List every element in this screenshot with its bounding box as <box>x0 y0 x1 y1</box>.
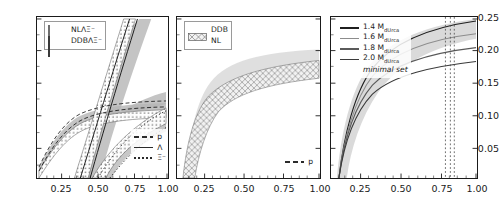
legend-item-xi: Ξ⁻ <box>134 153 166 163</box>
swatch-solid-line <box>134 144 153 152</box>
legend-label-xi: Ξ⁻ <box>157 154 166 162</box>
x-tick-label-right-3: 1.00 <box>462 184 492 194</box>
panel-mid-xticks <box>205 174 319 178</box>
swatch-dotted-line <box>134 154 153 162</box>
panel-mid-yticks-minor <box>177 35 180 165</box>
swatch-dashed-line <box>134 133 153 141</box>
legend-item-nl: NL <box>188 36 228 46</box>
legend-label-p-mid: p <box>308 158 313 166</box>
x-tick-label-right-0: 0.25 <box>345 184 375 194</box>
figure-container: 0.25 0.20 0.15 0.10 0.05 <box>0 0 499 210</box>
x-tick-label-mid-1: 0.50 <box>229 184 259 194</box>
legend-right-top: 1.4 MdUrca 1.6 MdUrca 1.8 MdUrca 2.0 MdU… <box>337 20 411 78</box>
x-tick-label-right-1: 0.50 <box>386 184 416 194</box>
legend-mid-bottom: p <box>282 154 316 170</box>
panel-right-yticks-minor <box>331 35 334 165</box>
swatch-line-18 <box>340 45 359 53</box>
x-tick-label-left-1: 0.50 <box>83 184 113 194</box>
swatch-ddb-band <box>48 37 67 45</box>
swatch-line-20 <box>340 56 359 64</box>
x-tick-label-mid-0: 0.25 <box>189 184 219 194</box>
panel-right-yticks <box>331 19 335 148</box>
legend-label-nl-mid: NL <box>211 37 221 45</box>
panel-mid-xticks-minor <box>189 176 307 178</box>
panel-mid: DDB NL p <box>176 16 321 179</box>
panel-left: NLΛΞ⁻ DDBΛΞ⁻ p Λ Ξ⁻ <box>36 16 169 179</box>
legend-item-lambda: Λ <box>134 143 166 153</box>
legend-label-ddb: DDBΛΞ⁻ <box>71 37 102 45</box>
legend-label-20-durca: 2.0 MdUrca <box>363 54 399 65</box>
x-tick-label-right-2: 0.75 <box>427 184 457 194</box>
panel-right-xticks <box>361 174 476 178</box>
swatch-dashed-line-mid <box>285 158 304 166</box>
swatch-line-16 <box>340 35 359 43</box>
legend-item-20-durca: 2.0 MdUrca <box>340 55 408 65</box>
legend-item-nl-lambda-xi: NLΛΞ⁻ <box>48 25 102 35</box>
panel-right: 1.4 MdUrca 1.6 MdUrca 1.8 MdUrca 2.0 MdU… <box>330 16 478 179</box>
legend-mid-top: DDB NL <box>184 21 232 50</box>
x-tick-label-left-2: 0.75 <box>120 184 150 194</box>
panel-mid-yticks-right <box>316 19 320 148</box>
legend-label-nl: NLΛΞ⁻ <box>71 26 95 34</box>
panel-mid-yticks <box>177 19 181 148</box>
swatch-nl-gray <box>188 37 207 45</box>
swatch-line-14 <box>340 24 359 32</box>
swatch-nl-band <box>48 26 67 34</box>
legend-item-proton: p <box>134 132 166 142</box>
x-tick-label-mid-2: 0.75 <box>269 184 299 194</box>
legend-label-minimal-set: minimal set <box>363 66 408 74</box>
panel-left-yticks-minor <box>37 35 40 165</box>
legend-item-ddb: DDB <box>188 25 228 35</box>
legend-label-ddb-mid: DDB <box>211 26 228 34</box>
legend-label-lambda: Λ <box>157 144 162 152</box>
x-tick-label-mid-3: 1.00 <box>305 184 335 194</box>
legend-item-proton-mid: p <box>285 157 313 167</box>
panel-right-xticks-minor <box>345 176 466 178</box>
x-tick-label-left-3: 1.00 <box>153 184 183 194</box>
x-tick-label-left-0: 0.25 <box>46 184 76 194</box>
legend-label-p: p <box>157 133 162 141</box>
legend-left-bottom: p Λ Ξ⁻ <box>131 129 167 166</box>
swatch-ddb-hatch <box>188 26 207 34</box>
legend-item-minimal-set: minimal set <box>340 65 408 75</box>
legend-left-top: NLΛΞ⁻ DDBΛΞ⁻ <box>44 21 106 50</box>
swatch-minimal-set <box>340 66 359 74</box>
legend-item-ddb-lambda-xi: DDBΛΞ⁻ <box>48 36 102 46</box>
panel-left-yticks <box>37 19 41 148</box>
